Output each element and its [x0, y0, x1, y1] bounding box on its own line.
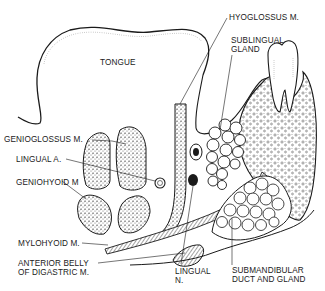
label-anterior-belly-digastric: ANTERIOR BELLY OF DIGASTRIC M. — [18, 259, 89, 277]
label-submandibular: SUBMANDIBULAR DUCT AND GLAND — [232, 266, 306, 284]
label-geniohyoid: GENIOHYOID M — [16, 178, 79, 187]
genioglossus-muscle — [83, 127, 146, 190]
geniohyoid-muscle — [78, 195, 150, 234]
anterior-belly-digastric — [173, 245, 204, 266]
lingual-artery — [155, 178, 165, 188]
sublingual-gland — [207, 119, 246, 190]
label-lingual-nerve: LINGUAL N. — [175, 267, 211, 285]
label-hyoglossus: HYOGLOSSUS M. — [229, 13, 299, 22]
lingual-nerve — [188, 174, 198, 186]
label-sublingual-gland: SUBLINGUAL GLAND — [231, 36, 284, 54]
label-tongue: TONGUE — [100, 58, 135, 67]
sublingual-vessel — [190, 144, 202, 160]
label-mylohyoid: MYLOHYOID M. — [18, 239, 80, 248]
hyoglossus-muscle — [162, 104, 186, 236]
label-lingual-artery: LINGUAL A. — [16, 155, 61, 164]
label-genioglossus: GENIOGLOSSUS M. — [4, 135, 83, 144]
